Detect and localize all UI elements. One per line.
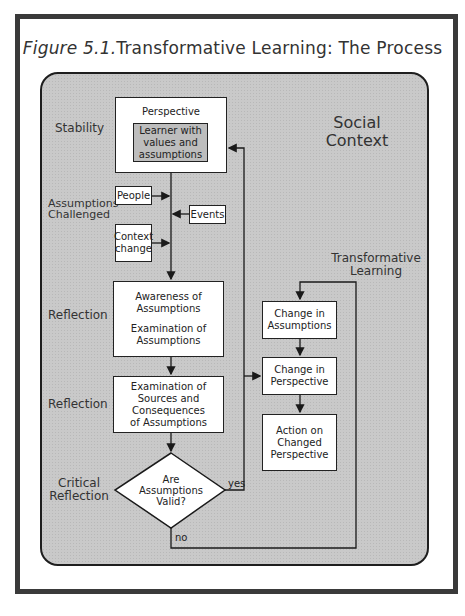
social-context-line-1: Social xyxy=(322,114,392,132)
people-text: People xyxy=(117,190,150,202)
change-perspective-line-2: Perspective xyxy=(271,376,329,388)
learner-line-1: Learner with xyxy=(139,125,202,137)
sources-line-4: of Assumptions xyxy=(130,417,207,429)
action-line-1: Action on xyxy=(276,425,323,437)
transformative-learning-line-2: Learning xyxy=(330,265,422,278)
decision-line-2: Assumptions xyxy=(131,485,211,496)
awareness-box: Awareness of Assumptions Examination of … xyxy=(113,281,224,357)
reflection-label-2: Reflection xyxy=(48,398,108,411)
assumptions-challenged-line-2: Challenged xyxy=(48,209,118,220)
social-context-line-2: Context xyxy=(322,132,392,150)
action-line-2: Changed xyxy=(277,437,322,449)
sources-box: Examination of Sources and Consequences … xyxy=(113,376,224,433)
decision-line-1: Are xyxy=(131,474,211,485)
change-assumptions-line-1: Change in xyxy=(274,308,325,320)
examination-line-2: Assumptions xyxy=(136,335,200,347)
learner-line-2: values and xyxy=(143,137,198,149)
change-assumptions-box: Change in Assumptions xyxy=(262,301,337,339)
no-label: no xyxy=(175,532,187,543)
decision-text: Are Assumptions Valid? xyxy=(131,474,211,507)
action-box: Action on Changed Perspective xyxy=(262,414,337,471)
yes-label: yes xyxy=(228,478,245,489)
social-context-label: Social Context xyxy=(322,114,392,150)
context-change-box: Context change xyxy=(115,224,152,262)
sources-line-3: Consequences xyxy=(132,405,205,417)
events-box: Events xyxy=(189,205,226,224)
change-perspective-line-1: Change in xyxy=(274,364,325,376)
critical-reflection-line-2: Reflection xyxy=(48,490,110,503)
critical-reflection-label: Critical Reflection xyxy=(48,477,110,503)
context-change-line-1: Context xyxy=(114,231,153,243)
reflection-label-1: Reflection xyxy=(48,309,108,322)
assumptions-challenged-label: Assumptions Challenged xyxy=(48,198,118,220)
change-assumptions-line-2: Assumptions xyxy=(267,320,331,332)
sources-line-1: Examination of xyxy=(131,381,206,393)
transformative-learning-label: Transformative Learning xyxy=(330,252,422,278)
examination-line-1: Examination of xyxy=(131,323,206,335)
change-perspective-box: Change in Perspective xyxy=(262,357,337,395)
context-change-line-2: change xyxy=(115,243,152,255)
learner-line-3: assumptions xyxy=(139,149,202,161)
stability-label: Stability xyxy=(55,122,104,135)
awareness-line-1: Awareness of xyxy=(135,291,202,303)
learner-box: Learner with values and assumptions xyxy=(133,123,208,162)
sources-line-2: Sources and xyxy=(138,393,200,405)
events-text: Events xyxy=(191,209,225,221)
decision-line-3: Valid? xyxy=(131,496,211,507)
people-box: People xyxy=(115,186,152,205)
awareness-line-2: Assumptions xyxy=(136,303,200,315)
perspective-title: Perspective xyxy=(142,106,200,118)
action-line-3: Perspective xyxy=(271,449,329,461)
